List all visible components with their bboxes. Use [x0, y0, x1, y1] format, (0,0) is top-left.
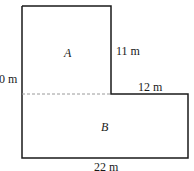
vertical-11m-label: 11 m: [116, 45, 140, 57]
region-b-label: B: [101, 121, 108, 133]
l-shape-diagram: [0, 0, 194, 171]
l-shape-outline: [22, 6, 188, 158]
bottom-22m-label: 22 m: [94, 161, 118, 171]
region-a-label: A: [64, 47, 71, 59]
left-height-label: 0 m: [0, 73, 17, 85]
horizontal-12m-label: 12 m: [138, 81, 162, 93]
